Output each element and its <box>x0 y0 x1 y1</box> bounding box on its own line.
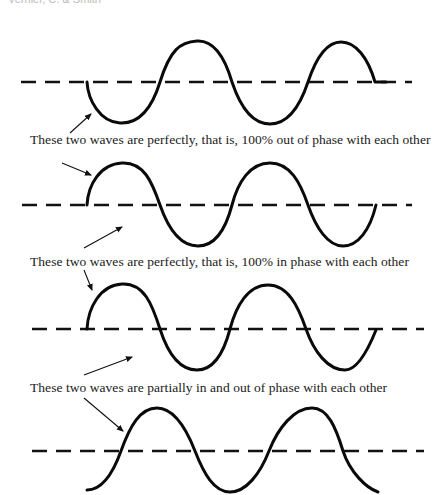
wave-2 <box>22 163 412 246</box>
arrow-caption2-to-wave3 <box>84 270 92 290</box>
arrow-caption3-to-wave3 <box>84 357 132 375</box>
arrow-caption1-to-wave2 <box>62 163 91 175</box>
wave-4 <box>32 408 424 492</box>
arrow-caption1-to-wave1 <box>70 114 91 133</box>
arrow-caption3-to-wave4 <box>84 398 123 431</box>
wave-3 <box>32 284 424 370</box>
caption-in-phase: These two waves are perfectly, that is, … <box>30 254 409 270</box>
caption-partial-phase: These two waves are partially in and out… <box>30 380 387 396</box>
caption-out-of-phase: These two waves are perfectly, that is, … <box>30 132 431 148</box>
wave-phase-diagram <box>0 0 444 495</box>
arrow-caption2-to-wave2 <box>84 227 122 248</box>
wave-1 <box>21 41 412 124</box>
